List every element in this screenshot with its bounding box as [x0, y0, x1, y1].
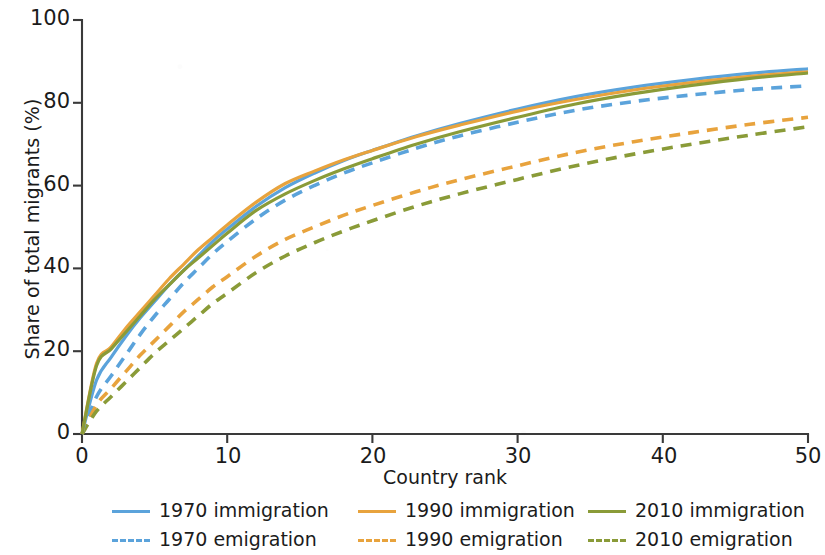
- legend-item-1990-emigration[interactable]: 1990 emigration: [358, 530, 588, 549]
- legend-item-1970-immigration[interactable]: 1970 immigration: [112, 501, 358, 520]
- legend-swatch-line: [358, 510, 396, 513]
- x-tick-label: 40: [634, 444, 694, 468]
- x-axis-title: Country rank: [82, 466, 808, 488]
- series-group: [82, 69, 808, 434]
- legend-item-2010-immigration[interactable]: 2010 immigration: [588, 501, 812, 520]
- series-line: [82, 127, 808, 434]
- x-tick-label: 0: [52, 444, 112, 468]
- x-tick-label: 50: [778, 444, 825, 468]
- legend-item-label: 1970 emigration: [159, 530, 317, 549]
- x-tick-label: 10: [198, 444, 258, 468]
- legend-swatch-line: [588, 539, 626, 542]
- legend-item-1970-emigration[interactable]: 1970 emigration: [112, 530, 358, 549]
- legend-item-label: 1970 immigration: [159, 501, 329, 520]
- legend-item-label: 2010 immigration: [635, 501, 805, 520]
- legend-swatch-line: [112, 539, 150, 542]
- y-axis-title: Share of total migrants (%): [21, 19, 43, 439]
- legend-item-label: 2010 emigration: [635, 530, 793, 549]
- legend-swatch-line: [112, 510, 150, 513]
- legend-swatch-line: [588, 510, 626, 513]
- plot-area: [0, 0, 818, 480]
- x-tick-label: 20: [343, 444, 403, 468]
- legend-item-2010-emigration[interactable]: 2010 emigration: [588, 530, 812, 549]
- chart-legend: 1970 immigration 1990 immigration 2010 i…: [112, 496, 812, 554]
- x-tick-label: 30: [488, 444, 548, 468]
- series-line: [82, 69, 808, 434]
- legend-item-1990-immigration[interactable]: 1990 immigration: [358, 501, 588, 520]
- series-line: [82, 86, 808, 434]
- legend-swatch-line: [358, 539, 396, 542]
- legend-item-label: 1990 immigration: [405, 501, 575, 520]
- legend-item-label: 1990 emigration: [405, 530, 563, 549]
